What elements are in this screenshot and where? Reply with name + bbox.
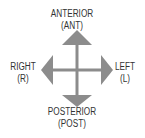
left-abbr: (L) bbox=[113, 73, 138, 85]
right-abbr: (R) bbox=[9, 73, 37, 85]
left-side-label: LEFT (L) bbox=[113, 61, 138, 85]
right-text: RIGHT bbox=[9, 61, 37, 73]
right-side-label: RIGHT (R) bbox=[9, 61, 37, 85]
arrow-left-icon bbox=[41, 55, 53, 85]
anterior-label: ANTERIOR (ANT) bbox=[47, 8, 96, 32]
arrow-up-icon bbox=[62, 30, 92, 45]
anterior-abbr: (ANT) bbox=[47, 20, 96, 32]
posterior-label: POSTERIOR (POST) bbox=[46, 106, 98, 130]
anterior-text: ANTERIOR bbox=[47, 8, 96, 20]
posterior-text: POSTERIOR bbox=[46, 106, 98, 118]
arrow-right-icon bbox=[101, 55, 113, 85]
left-text: LEFT bbox=[113, 61, 138, 73]
posterior-abbr: (POST) bbox=[46, 118, 98, 130]
